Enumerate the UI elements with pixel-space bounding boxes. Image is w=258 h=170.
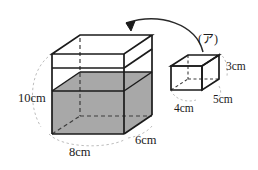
label-block-depth: 5cm — [213, 93, 233, 105]
figure-root: 10cm 8cm 6cm (ア) 3cm 5cm 4cm — [0, 0, 258, 170]
tank-top-rim — [52, 35, 152, 54]
label-tank-width: 8cm — [69, 145, 91, 159]
block-outline — [171, 55, 219, 90]
water-front-face — [52, 91, 124, 134]
label-block-width: 4cm — [174, 102, 194, 114]
label-block-tag: (ア) — [198, 32, 218, 46]
insert-arrow-head — [126, 21, 135, 31]
block-front-face — [171, 66, 202, 90]
label-tank-height: 10cm — [18, 91, 46, 105]
label-tank-depth: 6cm — [135, 133, 157, 147]
label-block-height: 3cm — [226, 60, 246, 72]
small-width-guide — [171, 90, 196, 101]
geometry-figure: 10cm 8cm 6cm (ア) 3cm 5cm 4cm — [0, 0, 258, 170]
